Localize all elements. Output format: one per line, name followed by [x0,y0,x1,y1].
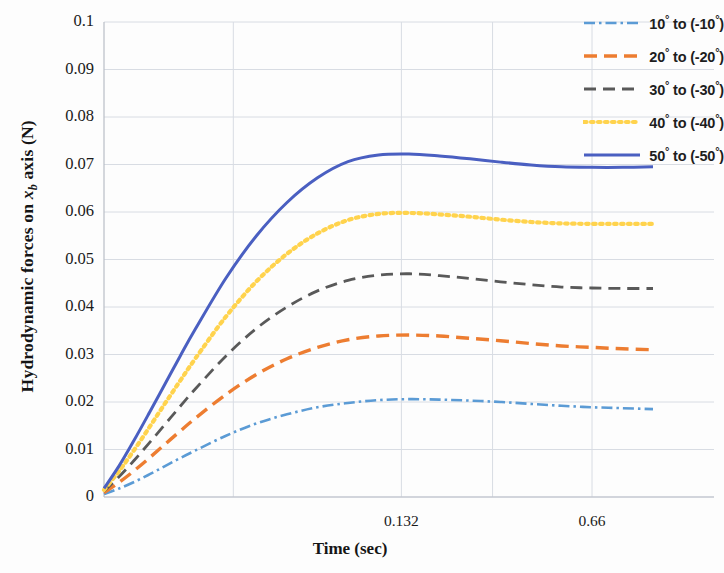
x-tick-label: 0.66 [552,512,632,530]
y-axis-title-subscript: b [26,184,40,190]
legend-line-sample [583,16,641,30]
series-line-10 [104,399,653,494]
legend-line-sample [583,82,641,96]
series-line-30 [104,274,653,492]
y-tick-label: 0.01 [28,439,94,459]
series-line-50 [104,154,653,489]
y-tick-label: 0.09 [28,59,94,79]
legend-label: 50° to (-50°) [649,145,724,164]
legend-label: 20° to (-20°) [649,46,724,65]
data-series-group [104,154,653,494]
x-axis-title: Time (sec) [240,539,460,559]
legend-item-40[interactable]: 40° to (-40°) [498,105,724,138]
y-axis-title-suffix: axis (N) [17,120,37,184]
legend-label: 10° to (-10°) [649,13,724,32]
series-line-40 [104,213,653,490]
y-tick-label: 0.08 [28,106,94,126]
legend-label: 40° to (-40°) [649,112,724,131]
x-tick-label: 0.132 [361,512,441,530]
legend-line-sample [583,148,641,162]
legend-label: 30° to (-30°) [649,79,724,98]
legend-line-sample [583,115,641,129]
series-line-20 [104,335,653,493]
legend-item-30[interactable]: 30° to (-30°) [498,72,724,105]
y-tick-label: 0.02 [28,391,94,411]
y-tick-label: 0.04 [28,296,94,316]
legend-item-20[interactable]: 20° to (-20°) [498,39,724,72]
y-tick-label: 0.06 [28,201,94,221]
y-axis-title-variable: x [17,190,37,199]
legend-item-10[interactable]: 10° to (-10°) [498,6,724,39]
y-tick-label: 0 [28,486,94,506]
y-tick-label: 0.03 [28,344,94,364]
legend-item-50[interactable]: 50° to (-50°) [498,138,724,171]
legend-line-sample [583,49,641,63]
chart-legend: 10° to (-10°)20° to (-20°)30° to (-30°)4… [498,6,724,171]
y-tick-label: 0.1 [28,11,94,31]
chart-figure: Hydrodynamic forces on xb axis (N) Time … [0,0,724,573]
y-tick-label: 0.05 [28,249,94,269]
y-tick-label: 0.07 [28,154,94,174]
